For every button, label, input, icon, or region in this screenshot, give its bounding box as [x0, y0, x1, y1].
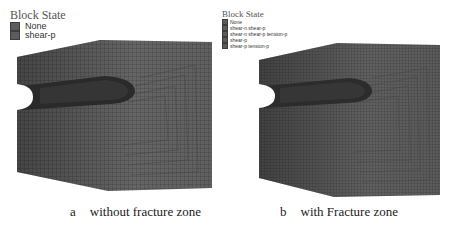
caption-a: awithout fracture zone [70, 204, 201, 220]
caption-text: without fracture zone [90, 204, 201, 219]
caption-text: with Fracture zone [301, 204, 398, 219]
caption-letter: a [70, 204, 76, 219]
mesh-block-b [222, 0, 453, 231]
mesh-block-a [0, 0, 226, 231]
caption-b: bwith Fracture zone [280, 204, 398, 220]
panel-a-without-fracture-zone: Block State None shear-p [0, 0, 226, 231]
caption-letter: b [280, 204, 287, 219]
panel-b-with-fracture-zone: Block State None shear-n shear-p shear-n… [222, 0, 453, 231]
